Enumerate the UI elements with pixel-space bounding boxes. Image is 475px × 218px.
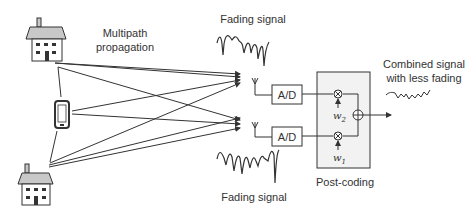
label-fading-top: Fading signal — [220, 13, 285, 25]
multipath-diagram: Multipath propagation Fading signal Fadi… — [0, 0, 475, 218]
label-fading-bottom: Fading signal — [221, 191, 286, 203]
antenna-icon-bottom — [252, 122, 272, 137]
antenna-icon-top — [252, 78, 272, 95]
label-combined-2: with less fading — [385, 72, 461, 84]
multiplier-icon-bottom — [334, 132, 342, 140]
label-ad-bottom: A/D — [278, 131, 296, 143]
fading-waveform-top — [217, 36, 269, 66]
label-post-coding: Post-coding — [316, 176, 374, 188]
phone-icon — [55, 101, 69, 128]
fading-waveform-bottom — [217, 150, 279, 183]
combined-waveform — [386, 90, 430, 99]
house-icon-top — [26, 18, 66, 61]
multiplier-icon-top — [334, 90, 342, 98]
label-ad-top: A/D — [278, 89, 296, 101]
multipath-rays — [49, 63, 240, 167]
label-multipath-2: propagation — [96, 41, 154, 53]
adder-icon — [353, 110, 363, 120]
label-combined-1: Combined signal — [383, 58, 465, 70]
house-icon-bottom — [18, 164, 53, 205]
label-multipath-1: Multipath — [103, 27, 148, 39]
